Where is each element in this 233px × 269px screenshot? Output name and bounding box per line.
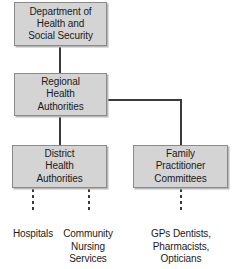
node-department-of-health-and-social-security[interactable]: Department of Health and Social Security <box>14 2 107 46</box>
node-family-practitioner-committees[interactable]: Family Practitioner Committees <box>133 145 228 188</box>
connector-rha-to-fpc-horizontal <box>107 99 182 101</box>
org-chart-diagram: Department of Health and Social Security… <box>0 0 233 269</box>
node-label: District Health Authorities <box>36 148 82 185</box>
leaf-label: GPs Dentists, Pharmacists, Opticians <box>151 228 211 264</box>
node-district-health-authorities[interactable]: District Health Authorities <box>12 145 107 188</box>
leaf-label: Community Nursing Services <box>63 228 113 264</box>
connector-fpc-to-gps-dentists <box>180 189 182 213</box>
leaf-community-nursing-services: Community Nursing Services <box>57 216 119 266</box>
connector-dhss-to-rha <box>59 46 61 73</box>
node-label: Department of Health and Social Security <box>28 6 93 43</box>
leaf-label: Hospitals <box>13 228 53 239</box>
connector-dha-to-hospitals <box>32 189 34 213</box>
node-label: Regional Health Authorities <box>37 76 83 113</box>
connector-rha-to-fpc-vertical <box>180 99 182 145</box>
connector-dha-to-community-nursing <box>88 189 90 213</box>
connector-rha-to-dha <box>59 116 61 145</box>
leaf-gps-dentists-pharmacists-opticians: GPs Dentists, Pharmacists, Opticians <box>135 216 227 266</box>
node-label: Family Practitioner Committees <box>154 148 206 185</box>
node-regional-health-authorities[interactable]: Regional Health Authorities <box>14 73 107 116</box>
